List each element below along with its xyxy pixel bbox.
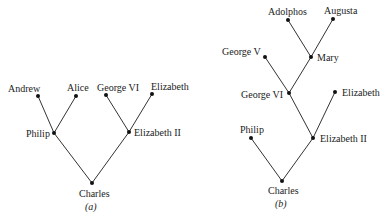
label-elizabeth2: Elizabeth II [134, 127, 181, 138]
node-george6 [104, 93, 108, 97]
label-philip: Philip [26, 128, 50, 139]
node-charles [90, 181, 94, 185]
node-alice [74, 94, 78, 98]
label-augusta: Augusta [324, 5, 357, 16]
label-elizabeth: Elizabeth [151, 81, 189, 92]
edge-elizabeth2-charles [282, 138, 313, 181]
node-mary [309, 55, 313, 59]
edge-philip-charles [54, 133, 92, 183]
node-elizabeth2 [127, 130, 131, 134]
label-adolphos: Adolphos [268, 6, 307, 17]
label-andrew: Andrew [8, 83, 40, 94]
edge-alice-philip [54, 96, 76, 133]
label-charles: Charles [268, 185, 299, 196]
caption-a: (a) [85, 201, 97, 212]
node-charles [280, 179, 284, 183]
edge-philip-charles [251, 138, 282, 181]
edge-adolphos-mary [288, 20, 311, 57]
edge-george6-elizabeth2 [289, 93, 313, 138]
label-alice: Alice [67, 82, 89, 93]
node-george6 [287, 91, 291, 95]
label-mary: Mary [317, 52, 339, 63]
node-elizabeth [333, 90, 337, 94]
label-george5: George V [222, 46, 261, 57]
family-tree-canvas [0, 0, 385, 220]
edge-george6-elizabeth2 [106, 95, 129, 132]
node-philip [249, 136, 253, 140]
label-george6: George VI [241, 89, 283, 100]
label-elizabeth2: Elizabeth II [320, 133, 367, 144]
caption-b: (b) [275, 198, 287, 209]
tree-b-edges [251, 19, 335, 181]
node-philip [52, 131, 56, 135]
label-philip: Philip [240, 124, 264, 135]
node-george5 [263, 55, 267, 59]
node-augusta [331, 17, 335, 21]
label-elizabeth: Elizabeth [342, 87, 380, 98]
node-elizabeth2 [311, 136, 315, 140]
tree-a-nodes [36, 92, 154, 185]
label-charles: Charles [79, 188, 110, 199]
edge-elizabeth-elizabeth2 [313, 92, 335, 138]
edge-elizabeth2-charles [92, 132, 129, 183]
tree-a-edges [38, 94, 152, 183]
edge-mary-george6 [289, 57, 311, 93]
node-andrew [36, 94, 40, 98]
node-adolphos [286, 18, 290, 22]
label-george6: George VI [97, 82, 139, 93]
edge-george5-george6 [265, 57, 289, 93]
node-elizabeth [150, 92, 154, 96]
